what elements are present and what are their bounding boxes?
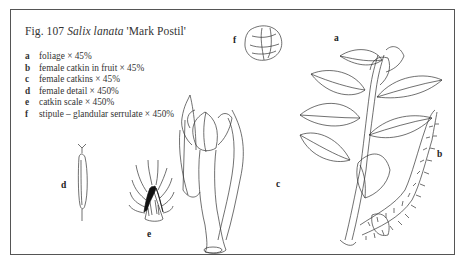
catkin-scale-drawing <box>129 160 174 221</box>
label-f: f <box>233 35 236 45</box>
label-e: e <box>147 229 151 239</box>
label-c: c <box>276 179 280 189</box>
label-d: d <box>61 180 66 190</box>
foliage-drawing <box>300 47 442 246</box>
label-b: b <box>437 149 442 159</box>
label-a: a <box>334 33 339 43</box>
female-catkins-drawing <box>179 95 243 253</box>
female-detail-drawing <box>78 144 87 221</box>
stipule-drawing <box>245 26 282 60</box>
